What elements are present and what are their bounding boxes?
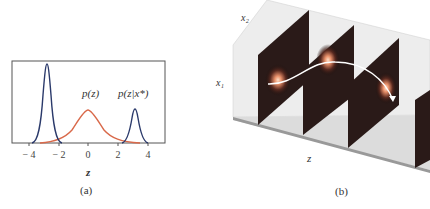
svg-text:0: 0	[86, 149, 91, 160]
x-axis-label: z	[86, 166, 90, 178]
label-prior: p(z)	[82, 87, 99, 99]
blob-2	[316, 44, 340, 76]
axis-label-z: z	[307, 152, 311, 164]
svg-text:4: 4	[146, 149, 151, 160]
svg-text:2: 2	[116, 149, 121, 160]
axis-label-x2: x₂	[241, 12, 249, 23]
x-tick-labels: − 4 − 2 0 2 4	[22, 149, 150, 160]
panel-b: x₂ x₁ z (b)	[200, 0, 430, 209]
latent-slices-3d	[200, 0, 430, 209]
slice-4	[415, 90, 430, 168]
density-plot: − 4 − 2 0 2 4	[0, 0, 200, 209]
caption-b: (b)	[335, 185, 348, 197]
posterior-curve-left	[32, 64, 62, 143]
panel-a: − 4 − 2 0 2 4 p(z) p(z|x*) z (a)	[0, 0, 200, 209]
posterior-curve-right	[122, 109, 148, 143]
caption-a: (a)	[80, 184, 92, 196]
floor	[233, 115, 430, 170]
plot-frame	[12, 61, 165, 143]
axis-label-x1: x₁	[216, 77, 224, 88]
svg-text:− 2: − 2	[52, 149, 65, 160]
svg-text:− 4: − 4	[22, 149, 35, 160]
label-posterior: p(z|x*)	[118, 87, 149, 99]
